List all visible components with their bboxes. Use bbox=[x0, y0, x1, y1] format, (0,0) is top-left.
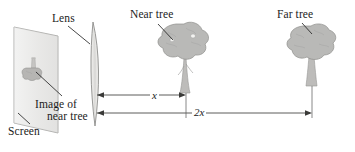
lens-shape bbox=[91, 22, 99, 126]
near-tree bbox=[158, 22, 209, 93]
dimension-label-x: x bbox=[150, 89, 159, 101]
label-lens: Lens bbox=[52, 12, 75, 25]
label-far-tree: Far tree bbox=[277, 8, 313, 21]
label-near-tree: Near tree bbox=[130, 8, 173, 21]
label-image-of-near-tree-line2: near tree bbox=[47, 110, 88, 123]
optics-lens-diagram: Lens Near tree Far tree Image of near tr… bbox=[0, 0, 355, 152]
label-screen: Screen bbox=[8, 125, 40, 138]
label-image-of: Image of bbox=[35, 98, 77, 111]
dimension-label-2x: 2x bbox=[192, 106, 206, 118]
dimension-arrow-x bbox=[97, 92, 186, 97]
leader-line-lens bbox=[68, 26, 90, 44]
